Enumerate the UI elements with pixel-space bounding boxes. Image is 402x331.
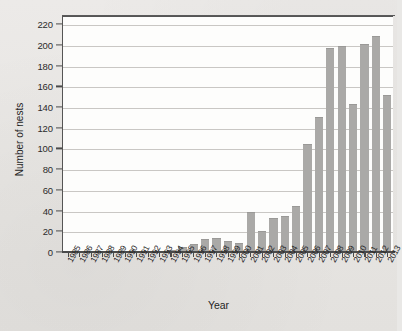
y-tick-mark [56,106,62,107]
bar [315,117,323,252]
y-tick-mark [56,24,62,25]
x-axis-title: Year [0,299,397,311]
bar [360,44,368,252]
bar-slot [325,17,336,252]
bar-slot [291,17,302,252]
bar-slot [256,17,267,252]
y-tick-mark [56,231,62,232]
bar-slot [188,17,199,252]
bar-slot [359,17,370,252]
bar-slot [222,17,233,252]
y-tick-mark [56,86,62,87]
bar-slot [143,17,154,252]
bar-slot [165,17,176,252]
y-tick-mark [56,169,62,170]
bar-slot [382,17,393,252]
bar-slot [211,17,222,252]
bar-slot [200,17,211,252]
bar-slot [313,17,324,252]
bar-slot [302,17,313,252]
y-tick-mark [56,127,62,128]
y-tick-mark [56,148,62,149]
bar-slot [97,17,108,252]
y-tick-mark [56,189,62,190]
y-tick-label: 0 [13,247,53,258]
bar-slot [347,17,358,252]
bar-slot [63,17,74,252]
y-tick-mark [56,210,62,211]
bar-slot [234,17,245,252]
bar-slot [131,17,142,252]
y-tick-label: 20 [13,226,53,237]
bar-slot [279,17,290,252]
bar-slot [109,17,120,252]
bar [338,46,346,252]
y-tick-label: 180 [13,60,53,71]
bar-slot [245,17,256,252]
y-tick-label: 200 [13,39,53,50]
y-tick-mark [56,44,62,45]
bar [326,48,334,252]
y-tick-label: 220 [13,19,53,30]
bar-slot [74,17,85,252]
y-tick-label: 40 [13,205,53,216]
bar-slot [177,17,188,252]
bar-slot [86,17,97,252]
bar-series [63,17,393,252]
plot-area [62,16,393,252]
y-axis-title: Number of nests [14,80,25,200]
bar [383,95,391,252]
bar-slot [120,17,131,252]
bar [303,144,311,252]
bar [372,36,380,252]
y-tick-mark [56,65,62,66]
bar-slot [154,17,165,252]
y-tick-mark [56,251,62,252]
bar-slot [370,17,381,252]
bar [349,104,357,252]
bar-slot [336,17,347,252]
bar-slot [268,17,279,252]
